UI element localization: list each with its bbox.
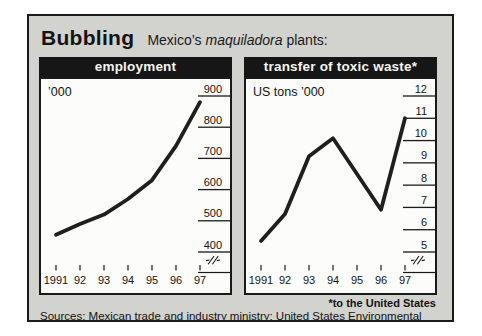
unit-label: ’000: [48, 85, 72, 99]
y-tick-label: 12: [415, 83, 427, 95]
x-tick-label: 92: [279, 274, 291, 286]
x-tick-label: 92: [74, 274, 86, 286]
subtitle-prefix: Mexico’s: [147, 32, 205, 48]
data-line: [261, 118, 405, 241]
x-tick-label: 95: [146, 274, 158, 286]
y-tick-label: 600: [204, 176, 222, 188]
x-tick-label: 94: [122, 274, 134, 286]
chart-panel-employment: employment ’0004005006007008009001991929…: [39, 57, 232, 295]
y-tick-label: 11: [416, 105, 427, 117]
x-tick-label: 96: [170, 274, 182, 286]
y-tick-label: 800: [204, 114, 222, 126]
axis-break-icon: [206, 256, 220, 264]
sources: Sources: Mexican trade and industry mini…: [29, 310, 452, 322]
x-tick-label: 93: [98, 274, 110, 286]
data-line: [56, 102, 200, 235]
x-tick-label: 1991: [249, 274, 273, 286]
y-tick-label: 9: [421, 149, 427, 161]
y-axis-ticks: 400500600700800900: [198, 83, 230, 253]
chart-title-employment: employment: [39, 57, 232, 77]
y-tick-label: 8: [421, 172, 427, 184]
y-tick-label: 10: [415, 127, 427, 139]
x-tick-label: 97: [399, 274, 411, 286]
x-tick-label: 95: [351, 274, 363, 286]
y-tick-label: 7: [421, 194, 427, 206]
figure-titlebar: BubblingMexico’s maquiladora plants:: [29, 16, 452, 57]
charts-row: employment ’0004005006007008009001991929…: [29, 57, 452, 295]
x-tick-label: 93: [303, 274, 315, 286]
axis-break-icon: [411, 256, 425, 264]
footnote: *to the United States: [29, 297, 452, 309]
chart-plot-toxic-waste: US tons ’000567891011121991929394959697: [244, 77, 437, 295]
unit-label: US tons ’000: [253, 85, 325, 99]
y-tick-label: 400: [204, 239, 222, 251]
figure-subtitle: Mexico’s maquiladora plants:: [147, 32, 327, 48]
y-tick-label: 5: [421, 239, 427, 251]
y-tick-label: 500: [204, 207, 222, 219]
x-tick-label: 1991: [44, 274, 68, 286]
y-tick-label: 700: [204, 145, 222, 157]
subtitle-italic: maquiladora: [205, 32, 282, 48]
x-axis-ticks: 1991929394959697: [44, 265, 206, 286]
y-tick-label: 6: [421, 216, 427, 228]
chart-title-toxic-waste: transfer of toxic waste*: [244, 57, 437, 77]
x-tick-label: 97: [194, 274, 206, 286]
y-tick-label: 900: [204, 83, 222, 95]
x-tick-label: 94: [327, 274, 339, 286]
y-axis-ticks: 56789101112: [403, 83, 435, 253]
chart-board: BubblingMexico’s maquiladora plants: emp…: [27, 14, 454, 322]
figure-title: Bubbling: [41, 26, 134, 49]
employment-line-chart: ’0004005006007008009001991929394959697: [41, 79, 230, 293]
x-axis-ticks: 1991929394959697: [249, 265, 411, 286]
chart-plot-employment: ’0004005006007008009001991929394959697: [39, 77, 232, 295]
toxic-waste-line-chart: US tons ’000567891011121991929394959697: [246, 79, 435, 293]
chart-panel-toxic-waste: transfer of toxic waste* US tons ’000567…: [244, 57, 437, 295]
subtitle-suffix: plants:: [283, 32, 328, 48]
page: BubblingMexico’s maquiladora plants: emp…: [0, 0, 482, 336]
x-tick-label: 96: [375, 274, 387, 286]
